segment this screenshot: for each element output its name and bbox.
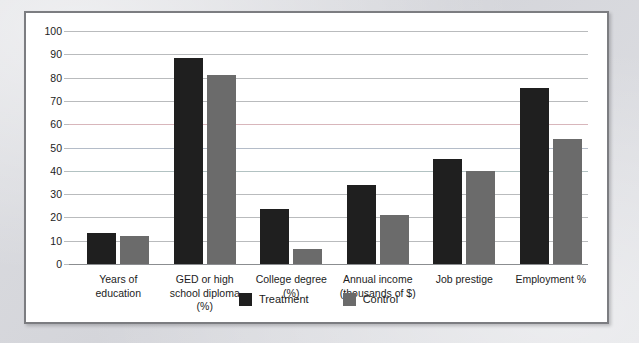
y-tick-label-0: 0 (56, 259, 62, 270)
legend-label: Treatment (259, 294, 309, 305)
legend-swatch-icon (239, 293, 252, 306)
y-tick-mark-70 (64, 101, 69, 102)
y-tick-label-20: 20 (50, 212, 62, 223)
y-tick-mark-50 (64, 148, 69, 149)
legend-item-control[interactable]: Control (343, 293, 398, 306)
bar-group: Years ofeducation (87, 31, 149, 264)
y-tick-mark-30 (64, 194, 69, 195)
bar-control (466, 171, 495, 264)
y-tick-mark-0 (64, 264, 69, 265)
y-tick-label-100: 100 (44, 26, 62, 37)
y-tick-mark-20 (64, 217, 69, 218)
bar-group: College degree(%) (260, 31, 322, 264)
chart-legend: TreatmentControl (26, 293, 611, 306)
y-tick-label-30: 30 (50, 189, 62, 200)
bar-treatment (347, 185, 376, 264)
legend-label: Control (363, 294, 398, 305)
bar-control (293, 249, 322, 264)
y-tick-label-60: 60 (50, 119, 62, 130)
y-tick-mark-60 (64, 124, 69, 125)
bar-treatment (87, 233, 116, 264)
y-tick-label-70: 70 (50, 96, 62, 107)
bar-treatment (260, 209, 289, 264)
legend-swatch-icon (343, 293, 356, 306)
bar-control (380, 215, 409, 264)
gridline-0 (69, 264, 588, 265)
y-tick-mark-80 (64, 78, 69, 79)
plot-area: 0102030405060708090100 Years ofeducation… (69, 31, 588, 264)
y-tick-label-50: 50 (50, 142, 62, 153)
bar-control (120, 236, 149, 264)
bar-group: GED or highschool diploma(%) (174, 31, 236, 264)
legend-item-treatment[interactable]: Treatment (239, 293, 309, 306)
bar-treatment (520, 88, 549, 264)
bar-control (207, 75, 236, 264)
y-tick-mark-10 (64, 241, 69, 242)
x-axis-category-label: Employment % (489, 273, 613, 287)
bar-control (553, 139, 582, 264)
bar-treatment (433, 159, 462, 264)
bar-treatment (174, 58, 203, 264)
y-tick-mark-40 (64, 171, 69, 172)
bar-group: Annual income(thousands of $) (347, 31, 409, 264)
y-tick-label-90: 90 (50, 49, 62, 60)
x-axis-label-line: Employment % (489, 273, 613, 287)
bar-group: Employment % (520, 31, 582, 264)
y-tick-label-10: 10 (50, 235, 62, 246)
chart-panel: 0102030405060708090100 Years ofeducation… (24, 11, 609, 324)
bar-group: Job prestige (433, 31, 495, 264)
y-tick-label-80: 80 (50, 72, 62, 83)
y-tick-label-40: 40 (50, 166, 62, 177)
y-tick-mark-100 (64, 31, 69, 32)
y-tick-mark-90 (64, 54, 69, 55)
